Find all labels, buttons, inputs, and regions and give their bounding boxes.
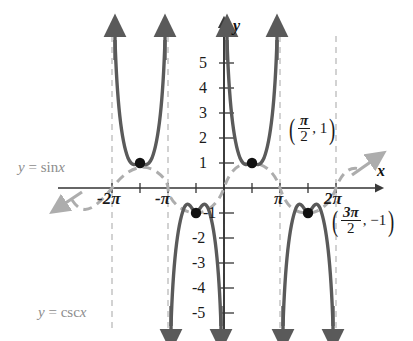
csc-label-function: csc xyxy=(61,304,80,320)
csc-label-arg: x xyxy=(80,304,87,320)
cosecant-curve-label: y = cscx xyxy=(38,305,86,320)
annot1-numerator: π xyxy=(298,113,310,128)
annotation-pi-over-2-one: ( π 2 , 1 ) xyxy=(287,113,337,145)
sine-label-arg: x xyxy=(58,159,65,175)
csc-branch-zero-to-pi xyxy=(227,40,277,165)
y-axis-label: y xyxy=(233,18,240,34)
annot2-fraction: 3π 2 xyxy=(341,205,361,237)
x-tick-label-minus-pi: -π xyxy=(155,190,170,207)
y-tick-label-3: 3 xyxy=(199,105,207,121)
annot2-close-paren: ) xyxy=(388,208,394,234)
point-3pi-over-2 xyxy=(303,208,313,218)
y-tick-label-minus-5: -5 xyxy=(192,305,205,321)
csc-label-lhs: y xyxy=(38,304,45,320)
sine-label-equals: = xyxy=(28,159,36,175)
annot2-numerator: 3π xyxy=(341,205,361,220)
annot1-fraction: π 2 xyxy=(298,113,310,145)
annot2-denominator: 2 xyxy=(345,221,357,236)
point-pi-over-2 xyxy=(247,158,257,168)
sine-label-function: sin xyxy=(41,159,59,175)
y-tick-label-1: 1 xyxy=(199,155,207,171)
sine-label-lhs: y xyxy=(18,159,25,175)
y-tick-label-minus-3: -3 xyxy=(192,255,205,271)
y-tick-label-minus-2: -2 xyxy=(192,230,205,246)
x-tick-label-pi: π xyxy=(274,190,283,207)
annot2-rest: , −1 xyxy=(363,213,386,228)
annot2-open-paren: ( xyxy=(332,208,338,234)
sine-curve-label: y = sinx xyxy=(18,160,65,175)
y-tick-label-5: 5 xyxy=(199,55,207,71)
csc-label-equals: = xyxy=(48,304,56,320)
y-tick-label-4: 4 xyxy=(199,80,207,96)
csc-sine-graph-figure: 5 4 3 2 1 -1 -2 -3 -4 -5 -2π -π π 2π y x… xyxy=(0,0,413,341)
y-tick-label-2: 2 xyxy=(199,130,207,146)
x-tick-label-minus-2pi: -2π xyxy=(97,190,120,207)
x-axis-label: x xyxy=(377,163,385,179)
annot1-rest: , 1 xyxy=(312,121,327,136)
annot1-open-paren: ( xyxy=(289,116,295,142)
annotation-3pi-over-2-negative-one: ( 3π 2 , −1 ) xyxy=(330,205,396,237)
annot1-close-paren: ) xyxy=(329,116,335,142)
annot1-denominator: 2 xyxy=(298,129,310,144)
y-tick-label-minus-1: -1 xyxy=(203,205,216,221)
csc-branch-pi-to-2pi xyxy=(283,204,333,326)
y-tick-label-minus-4: -4 xyxy=(192,280,205,296)
point-minus-3pi-over-2 xyxy=(135,158,145,168)
axes xyxy=(58,26,376,330)
csc-branch-minus-2pi-to-minus-pi xyxy=(115,40,165,165)
point-minus-pi-over-2 xyxy=(191,208,201,218)
